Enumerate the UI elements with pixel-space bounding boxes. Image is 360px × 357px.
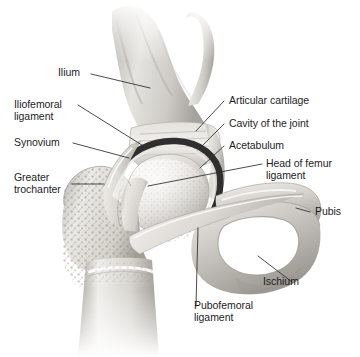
label-greater-trochanter-line2: trochanter <box>14 184 61 196</box>
leader-synovium <box>73 143 129 158</box>
label-synovium: Synovium <box>14 137 60 149</box>
label-ilium: Ilium <box>58 67 80 79</box>
label-pubofemoral-ligament-line2: ligament <box>194 312 233 324</box>
label-iliofemoral-ligament-line2: ligament <box>14 111 53 123</box>
femur-shaft <box>70 258 170 357</box>
label-greater-trochanter-line1: Greater <box>14 172 49 184</box>
label-iliofemoral-ligament-line1: Iliofemoral <box>14 99 62 111</box>
label-head-of-femur-ligament-line1: Head of femur <box>266 158 332 170</box>
label-ischium: Ischium <box>263 276 299 288</box>
ilium-bone <box>95 0 230 140</box>
label-pubis: Pubis <box>315 206 341 218</box>
hip-joint-anatomy-figure: Ilium Iliofemoral ligament Synovium Grea… <box>0 0 360 357</box>
label-acetabulum: Acetabulum <box>229 140 284 152</box>
hip-joint-illustration <box>0 0 360 357</box>
label-cavity-of-the-joint: Cavity of the joint <box>229 118 309 130</box>
label-articular-cartilage: Articular cartilage <box>229 95 309 107</box>
label-head-of-femur-ligament-line2: ligament <box>266 170 305 182</box>
label-pubofemoral-ligament-line1: Pubofemoral <box>194 300 253 312</box>
